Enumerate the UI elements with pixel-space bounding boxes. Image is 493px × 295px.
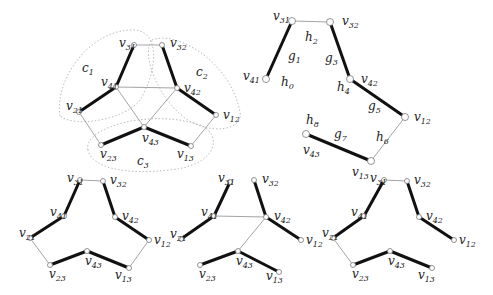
thick-edge	[101, 127, 144, 145]
vertex-label: v42	[361, 72, 378, 88]
vertex-label: v12	[306, 233, 323, 249]
thick-edge	[79, 87, 116, 112]
thick-edge	[50, 251, 87, 265]
edge-label: g1	[288, 49, 301, 65]
vertex-label: v31	[218, 171, 235, 187]
vertex-label: v12	[414, 110, 431, 126]
thin-edge	[214, 216, 266, 217]
vertex-label: v31	[273, 9, 290, 25]
vertex-node	[368, 158, 375, 165]
vertex-label: v13	[177, 147, 194, 163]
vertex-label: v32	[110, 173, 127, 189]
thick-edge	[353, 251, 390, 265]
vertex-node	[264, 215, 269, 220]
edge-label: h2	[305, 30, 318, 46]
vertex-node	[452, 238, 457, 243]
vertex-node	[214, 113, 219, 118]
vertex-node	[175, 86, 180, 91]
vertex-label: v42	[274, 209, 291, 225]
vertex-label: v12	[154, 233, 171, 249]
vertex-label: v41	[351, 205, 368, 221]
vertex-label: v21	[170, 227, 187, 243]
vertex-label: v23	[352, 267, 369, 283]
vertex-label: v42	[426, 209, 443, 225]
vertex-label: v21	[66, 99, 83, 115]
vertex-label: v12	[223, 108, 240, 124]
edge-label: h6	[376, 130, 389, 146]
vertex-node	[405, 179, 410, 184]
vertex-label: v42	[184, 81, 201, 97]
thick-edge	[200, 251, 238, 265]
thin-edge	[238, 217, 266, 251]
cluster-label: c1	[82, 61, 94, 77]
vertex-label: v41	[243, 69, 260, 85]
edge-label: h0	[281, 75, 294, 91]
vertex-label: v43	[303, 143, 320, 159]
thin-edge	[30, 238, 50, 265]
thick-edge	[330, 22, 350, 79]
vertex-node	[101, 179, 106, 184]
edge-label: g3	[325, 51, 338, 67]
vertex-node	[142, 125, 147, 130]
vertex-label: v41	[101, 75, 118, 91]
edge-label: h8	[306, 113, 319, 129]
vertex-node	[252, 178, 257, 183]
vertex-label: v32	[170, 36, 187, 52]
vertex-node	[236, 249, 241, 254]
vertex-label: v12	[459, 233, 476, 249]
vertex-node	[263, 76, 270, 83]
edge-label: h4	[337, 80, 350, 96]
vertex-label: v32	[262, 172, 279, 188]
thin-edge	[79, 112, 101, 145]
thin-edge	[333, 238, 353, 265]
vertex-label: v23	[199, 267, 216, 283]
vertex-node	[347, 76, 354, 83]
vertex-node	[303, 131, 310, 138]
vertex-label: v13	[352, 165, 369, 181]
vertex-node	[189, 144, 194, 149]
vertex-label: v42	[122, 209, 139, 225]
vertex-node	[147, 238, 152, 243]
cluster-label: c3	[137, 154, 149, 170]
vertex-node	[160, 43, 165, 48]
vertex-node	[327, 19, 334, 26]
vertex-label: v41	[50, 205, 67, 221]
thick-edge	[162, 45, 177, 88]
node-layer	[28, 18, 457, 275]
vertex-label: v31	[370, 171, 387, 187]
vertex-label: v31	[67, 171, 84, 187]
graph-figure: c1c2c3v31v32v41v42v21v12v43v23v13v31v32v…	[0, 0, 493, 295]
vertex-label: v32	[414, 173, 431, 189]
label-layer: c1c2c3v31v32v41v42v21v12v43v23v13v31v32v…	[19, 9, 476, 285]
vertex-label: v31	[119, 36, 136, 52]
vertex-node	[402, 114, 409, 121]
vertex-label: v21	[19, 226, 36, 242]
edge-label: g7	[334, 127, 348, 143]
vertex-node	[388, 249, 393, 254]
edge-label: g5	[368, 99, 381, 115]
diagram-canvas: c1c2c3v31v32v41v42v21v12v43v23v13v31v32v…	[0, 0, 493, 295]
vertex-node	[113, 215, 118, 220]
thin-edge	[292, 21, 330, 22]
vertex-label: v23	[100, 147, 117, 163]
vertex-label: v41	[201, 205, 218, 221]
vertex-node	[85, 249, 90, 254]
vertex-label: v21	[322, 226, 339, 242]
thin-edge	[129, 240, 149, 268]
vertex-node	[127, 266, 132, 271]
vertex-label: v23	[49, 267, 66, 283]
thin-edge	[144, 88, 177, 127]
vertex-label: v32	[342, 14, 359, 30]
thin-edge	[116, 87, 144, 127]
cluster-label: c2	[196, 65, 208, 81]
thick-edge-layer	[30, 21, 454, 272]
vertex-node	[277, 270, 282, 275]
thin-edge-layer	[30, 21, 407, 268]
vertex-node	[299, 238, 304, 243]
vertex-node	[417, 215, 422, 220]
thin-edge	[191, 115, 216, 146]
vertex-node	[430, 266, 435, 271]
thin-edge	[384, 180, 407, 181]
cluster-layer	[59, 30, 240, 172]
thin-edge	[116, 87, 177, 88]
